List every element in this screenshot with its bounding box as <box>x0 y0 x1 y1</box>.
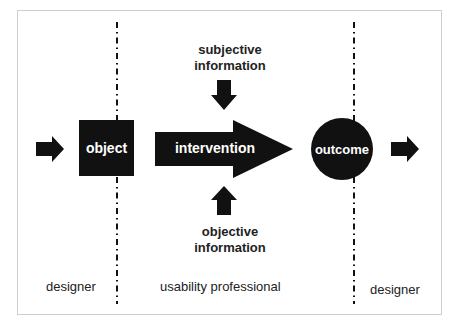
subjective-line1: subjective <box>175 42 285 58</box>
object-label: object <box>86 140 127 156</box>
arrow-right-out-icon <box>391 136 421 162</box>
outcome-label: outcome <box>315 142 369 157</box>
arrow-right-in-icon <box>36 136 66 162</box>
outcome-node: outcome <box>311 118 373 180</box>
subjective-info-label: subjective information <box>175 42 285 74</box>
role-usability-professional: usability professional <box>160 279 281 294</box>
objective-info-label: objective information <box>175 224 285 256</box>
arrow-up-icon <box>211 186 237 216</box>
intervention-label: intervention <box>155 140 275 156</box>
subjective-line2: information <box>175 58 285 74</box>
arrow-down-icon <box>211 80 237 111</box>
objective-line1: objective <box>175 224 285 240</box>
object-node: object <box>79 120 134 176</box>
objective-line2: information <box>175 240 285 256</box>
role-designer-right: designer <box>370 282 420 297</box>
role-designer-left: designer <box>46 279 96 294</box>
